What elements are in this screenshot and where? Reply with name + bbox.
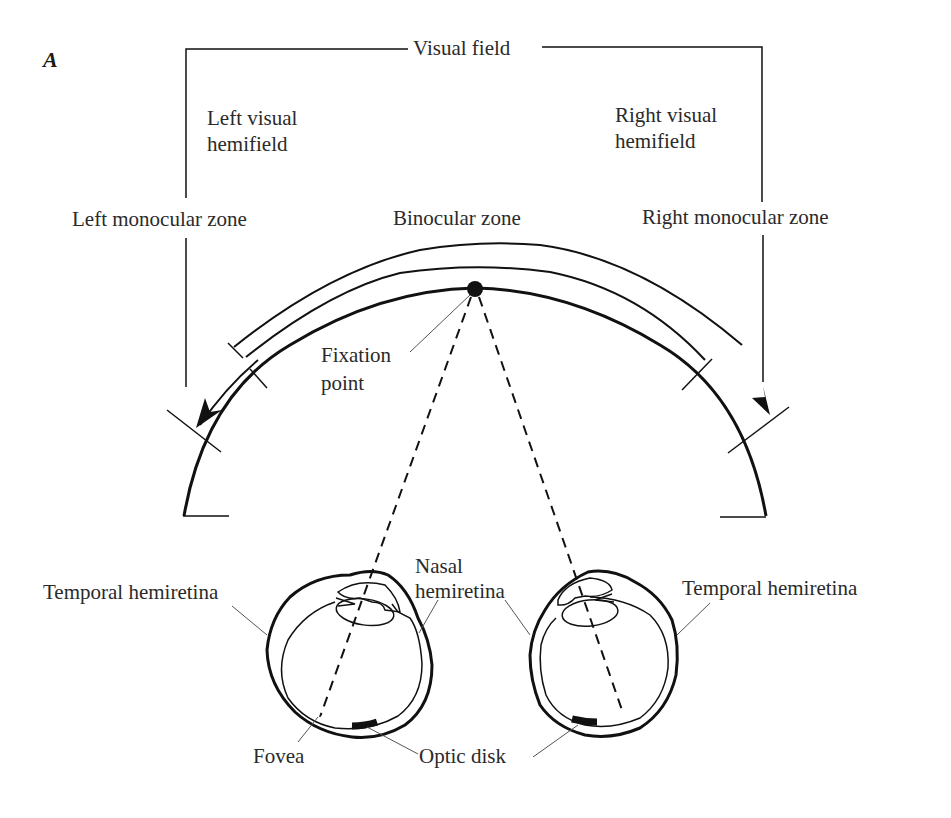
fixation-point-label-2: point xyxy=(321,371,364,395)
nasal-hemiretina-label-2: hemiretina xyxy=(415,579,505,603)
left-eye-sclera xyxy=(267,572,432,738)
nasal-hemiretina-leader-left-eye xyxy=(419,600,438,633)
nasal-hemiretina-leader-right-eye xyxy=(505,600,530,635)
left-eye-fovea-region xyxy=(320,718,350,725)
left-eyeball xyxy=(267,572,432,738)
fixation-point-dot xyxy=(467,281,483,297)
temporal-hemiretina-right-leader xyxy=(677,603,710,635)
left-visual-hemifield-label-1: Left visual xyxy=(207,106,298,130)
left-eye-retina xyxy=(282,602,423,729)
right-visual-hemifield-label-1: Right visual xyxy=(615,103,717,127)
left-monocular-arrow-arc xyxy=(234,243,742,347)
right-eye-optic-disk xyxy=(572,719,597,722)
left-monocular-zone-label: Left monocular zone xyxy=(72,207,247,231)
nasal-hemiretina-label-1: Nasal xyxy=(415,554,463,578)
fixation-point-label-1: Fixation xyxy=(321,343,392,367)
left-eye-optic-disk xyxy=(352,722,377,726)
visual-field-arc xyxy=(184,288,766,516)
right-eye-line-of-sight xyxy=(479,297,623,713)
fovea-label: Fovea xyxy=(253,744,305,768)
right-eyeball xyxy=(530,571,677,736)
left-visual-hemifield-label-2: hemifield xyxy=(207,132,288,156)
panel-label: A xyxy=(41,47,58,72)
binocular-zone-label: Binocular zone xyxy=(393,206,521,230)
temporal-hemiretina-left-label: Temporal hemiretina xyxy=(43,580,219,604)
right-eye-sclera xyxy=(530,571,677,736)
right-eye-retina xyxy=(540,597,668,726)
visual-field-diagram: A Visual field Left visual hemifield Rig… xyxy=(0,0,951,818)
right-visual-hemifield-label-2: hemifield xyxy=(615,129,696,153)
temporal-hemiretina-right-label: Temporal hemiretina xyxy=(682,576,858,600)
left-arrowhead-icon xyxy=(196,398,222,428)
left-eye-cornea xyxy=(338,583,400,612)
right-monocular-zone-label: Right monocular zone xyxy=(642,205,829,229)
temporal-hemiretina-left-leader xyxy=(232,606,267,635)
visual-field-title: Visual field xyxy=(413,36,511,60)
optic-disk-leader-right-eye xyxy=(533,725,578,757)
fixation-point-leader xyxy=(410,295,470,352)
binocular-zone-tick-left xyxy=(250,369,267,388)
optic-disk-label: Optic disk xyxy=(419,744,506,768)
right-arrowhead-icon xyxy=(752,386,770,415)
right-eye-fovea-region xyxy=(599,716,624,722)
